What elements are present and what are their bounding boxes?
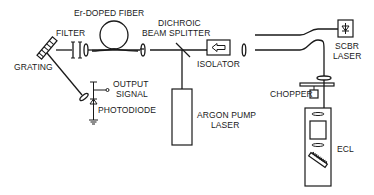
fiber-coil-icon (100, 21, 128, 49)
lens-icon (242, 44, 246, 56)
argon-pump-laser (172, 89, 192, 145)
lens-icon (317, 76, 331, 80)
scbr-label-2: LASER (333, 51, 361, 61)
scbr-label-1: SCBR (335, 41, 359, 51)
output-label-1: OUTPUT (113, 79, 149, 89)
filter-icon (71, 42, 82, 58)
chopper-label: CHOPPER (270, 89, 313, 99)
dichroic-label-2: BEAM SPLITTER (142, 28, 210, 38)
filter-label: FILTER (56, 28, 85, 38)
coupler-lower-fiber (255, 40, 324, 76)
grating-icon (37, 37, 57, 59)
argon-label-2: LASER (211, 120, 239, 130)
coupler-upper-fiber (255, 29, 338, 35)
photodiode-label: PHOTODIODE (98, 105, 156, 115)
grating-label: GRATING (14, 62, 53, 72)
ecl-label: ECL (337, 144, 354, 154)
photodiode-icon (89, 82, 109, 124)
optical-setup-diagram: GRATING FILTER Er-DOPED FIBER DICHROIC B… (0, 0, 374, 195)
dichroic-label-1: DICHROIC (158, 18, 201, 28)
lens-icon (84, 44, 88, 56)
ecl-gain-chip (310, 121, 326, 139)
argon-label-1: ARGON PUMP (197, 110, 256, 120)
er-fiber-label: Er-DOPED FIBER (74, 8, 144, 18)
isolator-label: ISOLATOR (197, 59, 240, 69)
chopper-blade (300, 83, 334, 86)
beam-grating-to-photodiode (47, 53, 82, 95)
lens-icon (141, 44, 145, 56)
output-label-2: SIGNAL (116, 89, 148, 99)
isolator-box (207, 40, 230, 55)
